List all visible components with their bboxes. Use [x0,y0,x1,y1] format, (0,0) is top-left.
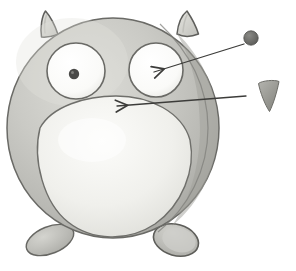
gopher-illustration [0,0,296,271]
eye-right [129,43,183,97]
legend-horn-triangle [259,80,280,111]
legend-pupil-dot [244,31,258,45]
illustration-canvas [0,0,296,271]
eye-left [47,43,105,99]
pupil-left [69,69,79,79]
horn-right [177,11,199,36]
